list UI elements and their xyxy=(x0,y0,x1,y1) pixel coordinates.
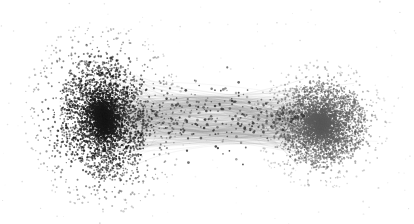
network-graph-canvas xyxy=(0,0,414,224)
network-graph-figure xyxy=(0,0,414,224)
